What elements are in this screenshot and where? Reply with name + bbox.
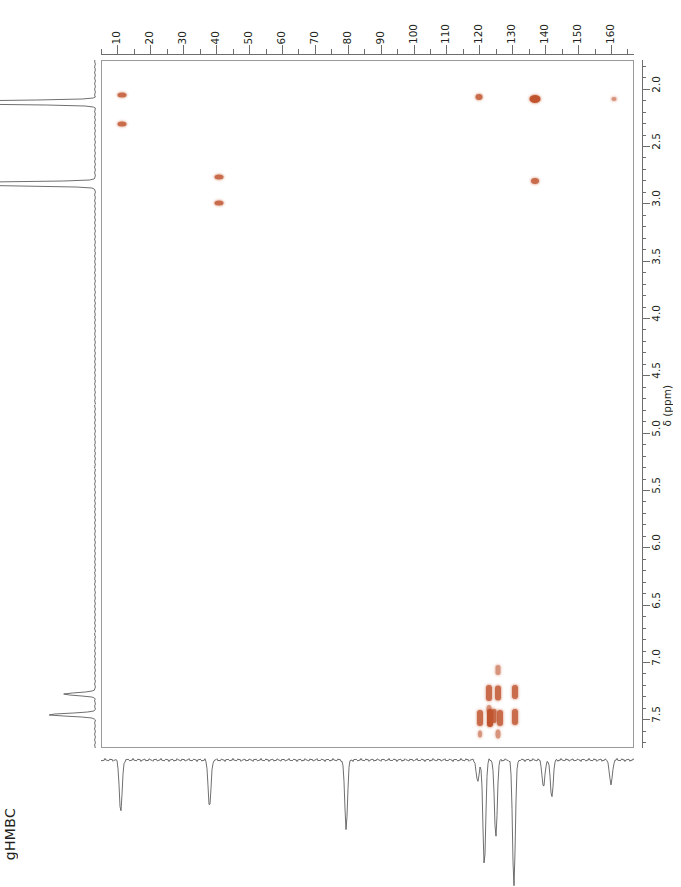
y-tick-minor	[642, 444, 646, 445]
x-tick-label: 50	[243, 31, 254, 44]
x-tick-major	[183, 45, 184, 54]
y-tick-minor	[642, 238, 646, 239]
y-tick-minor	[642, 398, 646, 399]
x-tick-major	[479, 45, 480, 54]
top-cropped-text	[335, 0, 450, 8]
experiment-label: gHMBC	[2, 808, 18, 860]
y-tick-minor	[642, 685, 646, 686]
x-tick-minor	[134, 49, 135, 54]
x-tick-label: 120	[473, 24, 484, 44]
cross-peak	[214, 201, 223, 206]
y-tick-major	[642, 662, 650, 663]
y-tick-minor	[642, 284, 646, 285]
y-tick-major	[642, 261, 650, 262]
y-tick-major	[642, 547, 650, 548]
proton-projection-trace	[0, 60, 101, 748]
x-tick-label: 160	[605, 24, 616, 44]
y-tick-minor	[642, 215, 646, 216]
y-tick-major	[642, 490, 650, 491]
y-tick-major	[642, 605, 650, 606]
x-tick-minor	[397, 49, 398, 54]
y-tick-minor	[642, 112, 646, 113]
x-tick-major	[315, 45, 316, 54]
y-tick-minor	[642, 364, 646, 365]
carbon-projection-svg	[101, 752, 634, 887]
y-tick-minor	[642, 157, 646, 158]
x-tick-label: 110	[440, 24, 451, 44]
cross-peak	[497, 710, 503, 726]
cross-peak	[486, 685, 492, 701]
y-tick-label: 4.0	[651, 305, 662, 322]
y-tick-major	[642, 433, 650, 434]
plot-area	[101, 60, 634, 748]
cross-peak	[117, 93, 126, 98]
x-tick-major	[611, 45, 612, 54]
x-tick-label: 70	[309, 31, 320, 44]
x-tick-minor	[562, 49, 563, 54]
cross-peak	[477, 710, 483, 726]
x-tick-major	[348, 45, 349, 54]
y-tick-minor	[642, 570, 646, 571]
y-tick-major	[642, 146, 650, 147]
x-tick-major	[512, 45, 513, 54]
y-tick-major	[642, 318, 650, 319]
x-tick-minor	[529, 49, 530, 54]
x-tick-label: 90	[375, 31, 386, 44]
y-tick-major	[642, 203, 650, 204]
y-tick-label: 6.5	[651, 592, 662, 609]
x-tick-major	[282, 45, 283, 54]
x-tick-minor	[364, 49, 365, 54]
y-tick-minor	[642, 192, 646, 193]
y-tick-minor	[642, 329, 646, 330]
y-tick-minor	[642, 123, 646, 124]
y-tick-minor	[642, 559, 646, 560]
y-tick-minor	[642, 307, 646, 308]
y-tick-minor	[642, 639, 646, 640]
x-tick-label: 130	[506, 24, 517, 44]
y-tick-minor	[642, 180, 646, 181]
cross-peak	[475, 94, 482, 100]
y-tick-minor	[642, 513, 646, 514]
cross-peak	[531, 178, 539, 184]
proton-projection-svg	[0, 60, 101, 748]
y-tick-minor	[642, 410, 646, 411]
cross-peak	[496, 665, 501, 675]
y-tick-minor	[642, 708, 646, 709]
x-tick-label: 100	[408, 24, 419, 44]
x-tick-minor	[430, 49, 431, 54]
cross-peak	[491, 709, 496, 723]
y-tick-minor	[642, 249, 646, 250]
x-tick-minor	[266, 49, 267, 54]
y-tick-label: 7.5	[651, 706, 662, 723]
x-tick-minor	[298, 49, 299, 54]
cross-peak	[117, 122, 126, 127]
cross-peak	[478, 731, 482, 738]
x-tick-major	[414, 45, 415, 54]
y-tick-minor	[642, 673, 646, 674]
y-tick-minor	[642, 295, 646, 296]
cross-peak	[512, 685, 518, 699]
y-tick-minor	[642, 582, 646, 583]
x-axis-carbon	[101, 54, 634, 55]
y-tick-minor	[642, 696, 646, 697]
x-tick-minor	[233, 49, 234, 54]
y-tick-minor	[642, 226, 646, 227]
x-tick-major	[381, 45, 382, 54]
x-tick-major	[117, 45, 118, 54]
y-tick-label: 4.5	[651, 362, 662, 379]
y-tick-minor	[642, 66, 646, 67]
y-tick-label: 2.5	[651, 133, 662, 150]
y-tick-label: 5.5	[651, 477, 662, 494]
cross-peak	[214, 174, 223, 179]
y-tick-minor	[642, 352, 646, 353]
x-tick-label: 80	[342, 31, 353, 44]
x-tick-label: 10	[111, 31, 122, 44]
y-tick-minor	[642, 536, 646, 537]
y-tick-minor	[642, 593, 646, 594]
x-tick-label: 40	[210, 31, 221, 44]
y-tick-label: 7.0	[651, 649, 662, 666]
y-tick-minor	[642, 272, 646, 273]
cross-peak	[611, 97, 616, 101]
y-axis-title: δ (ppm)	[661, 385, 673, 427]
y-tick-minor	[642, 387, 646, 388]
